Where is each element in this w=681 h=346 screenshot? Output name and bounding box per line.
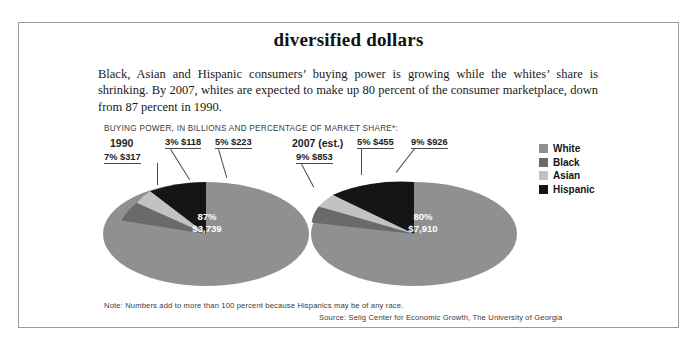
chart-note: Note: Numbers add to more than 100 perce… bbox=[104, 301, 403, 310]
callout-1990-asian: 3% $118 bbox=[165, 137, 201, 149]
pie-label-1990-value: $3,739 bbox=[192, 223, 221, 234]
page-root: diversified dollars Black, Asian and His… bbox=[0, 0, 681, 346]
legend-swatch-black-icon bbox=[539, 158, 548, 167]
legend-label-asian: Asian bbox=[553, 170, 580, 181]
callout-2007-asian: 5% $455 bbox=[357, 137, 394, 149]
legend-swatch-white-icon bbox=[539, 144, 548, 153]
legend-item-black: Black bbox=[539, 157, 595, 168]
legend-label-black: Black bbox=[553, 157, 580, 168]
chart-figure: BUYING POWER, IN BILLIONS AND PERCENTAGE… bbox=[19, 123, 680, 323]
callout-2007-hispanic: 9% $926 bbox=[411, 137, 448, 149]
pie-label-1990-percent: 87% bbox=[197, 211, 216, 222]
callout-1990-black: 7% $317 bbox=[104, 152, 141, 164]
leader-2007-asian bbox=[361, 149, 362, 175]
legend-swatch-hispanic-icon bbox=[539, 185, 548, 194]
legend-label-white: White bbox=[553, 143, 580, 154]
legend-label-hispanic: Hispanic bbox=[553, 184, 595, 195]
pie-label-2007-value: $7,910 bbox=[408, 223, 437, 234]
pie-label-2007-percent: 80% bbox=[413, 211, 432, 222]
year-label-2007: 2007 (est.) bbox=[292, 137, 343, 149]
chart-source: Source: Selig Center for Economic Growth… bbox=[319, 313, 562, 322]
leader-2007-hispanic bbox=[396, 148, 415, 172]
legend-item-asian: Asian bbox=[539, 170, 595, 181]
callout-2007-black: 9% $853 bbox=[296, 152, 333, 164]
legend-item-hispanic: Hispanic bbox=[539, 184, 595, 195]
article-frame: diversified dollars Black, Asian and His… bbox=[18, 22, 679, 328]
year-label-1990: 1990 bbox=[110, 137, 133, 149]
legend-swatch-asian-icon bbox=[539, 171, 548, 180]
pie-label-2007: 80% $7,910 bbox=[391, 211, 455, 235]
chart-subtitle: BUYING POWER, IN BILLIONS AND PERCENTAGE… bbox=[104, 124, 398, 133]
leader-1990-hispanic bbox=[218, 149, 227, 178]
page-title: diversified dollars bbox=[19, 29, 678, 51]
article-paragraph: Black, Asian and Hispanic consumers’ buy… bbox=[98, 66, 598, 115]
pie-label-1990: 87% $3,739 bbox=[175, 211, 239, 235]
legend-item-white: White bbox=[539, 143, 595, 154]
chart-legend: White Black Asian Hispanic bbox=[539, 143, 595, 197]
callout-1990-hispanic: 5% $223 bbox=[215, 137, 252, 149]
